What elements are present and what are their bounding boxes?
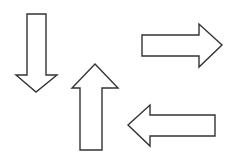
down-arrow[interactable] <box>16 14 57 92</box>
up-arrow[interactable] <box>72 64 118 150</box>
left-arrow[interactable] <box>128 105 215 146</box>
right-arrow[interactable] <box>142 24 222 67</box>
arrow-diagram <box>0 0 234 164</box>
diagram-canvas <box>0 0 234 164</box>
